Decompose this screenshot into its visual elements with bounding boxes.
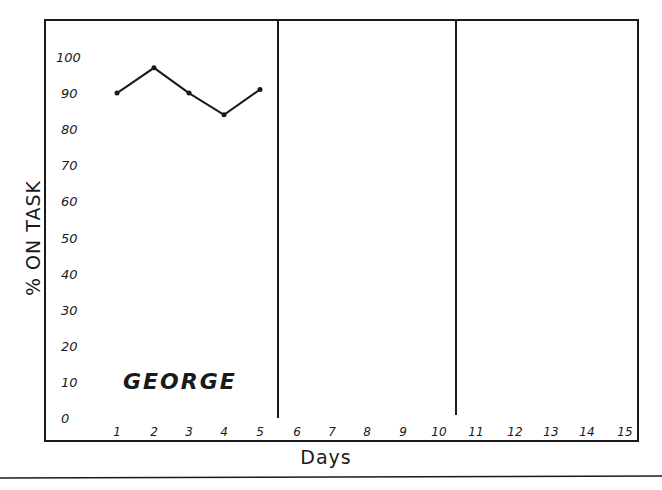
y-tick-label: 90	[61, 86, 78, 101]
x-tick-label: 15	[617, 425, 632, 439]
x-tick-label: 6	[293, 425, 301, 439]
y-tick-label: 100	[56, 50, 81, 65]
x-tick-label: 2	[150, 425, 158, 439]
x-tick-label: 14	[579, 425, 594, 439]
data-point-marker	[115, 91, 120, 96]
data-series	[115, 65, 263, 117]
x-tick-label: 4	[220, 425, 228, 439]
x-tick-label: 8	[363, 425, 371, 439]
x-tick-label: 5	[256, 425, 264, 439]
y-tick-label: 60	[61, 194, 78, 209]
y-tick-label: 0	[61, 411, 69, 426]
y-tick-label: 40	[61, 267, 78, 282]
data-point-marker	[222, 112, 227, 117]
y-tick-label: 10	[61, 375, 78, 390]
y-tick-label: 50	[61, 231, 78, 246]
x-tick-label: 12	[507, 425, 522, 439]
page-bottom-rule	[0, 476, 662, 478]
x-tick-label: 11	[468, 425, 483, 439]
x-tick-label: 13	[543, 425, 558, 439]
x-tick-label: 9	[399, 425, 407, 439]
y-tick-label: 70	[61, 158, 78, 173]
single-subject-line-chart: 0102030405060708090100 12345678910111213…	[0, 0, 662, 490]
x-axis-tick-labels: 123456789101112131415	[113, 425, 632, 439]
subject-label: GEORGE	[123, 369, 237, 394]
data-point-marker	[258, 87, 263, 92]
x-axis-title: Days	[300, 446, 351, 468]
x-tick-label: 7	[328, 425, 336, 439]
y-tick-label: 80	[61, 122, 78, 137]
x-tick-label: 3	[185, 425, 193, 439]
data-point-marker	[187, 91, 192, 96]
y-axis-title: % ON TASK	[22, 180, 44, 296]
x-tick-label: 10	[431, 425, 447, 439]
data-point-marker	[152, 65, 157, 70]
x-tick-label: 1	[113, 425, 121, 439]
y-axis-tick-labels: 0102030405060708090100	[56, 50, 81, 426]
y-tick-label: 20	[61, 339, 78, 354]
y-tick-label: 30	[61, 303, 78, 318]
